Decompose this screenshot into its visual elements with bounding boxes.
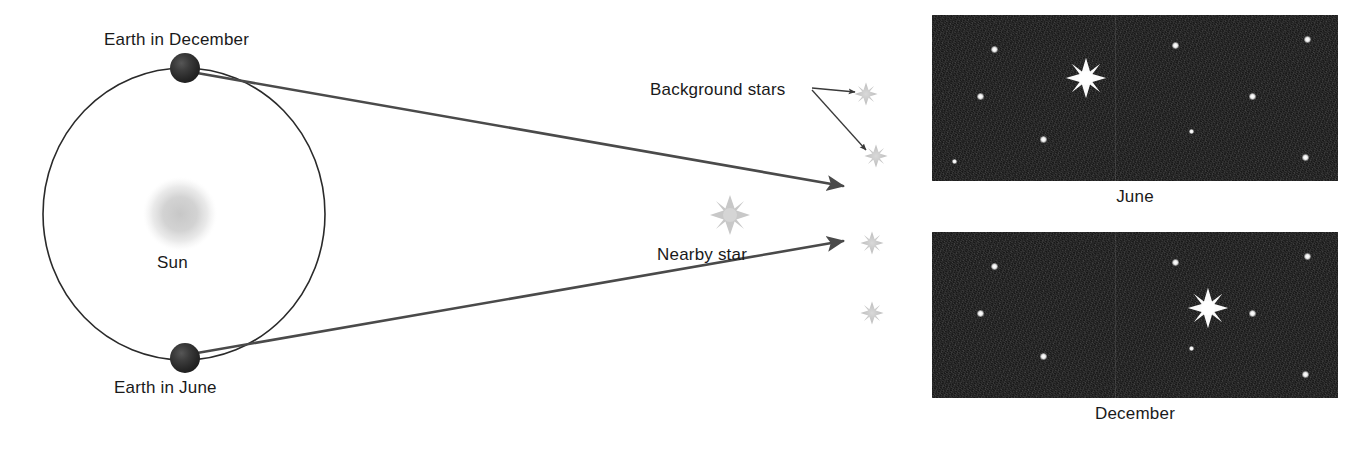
background-stars-leader-line bbox=[812, 88, 855, 92]
label-earth-in-june: Earth in June bbox=[114, 378, 217, 398]
background-star-marker bbox=[865, 145, 888, 168]
sky-panel-seam bbox=[1115, 15, 1116, 181]
label-panel-december: December bbox=[932, 404, 1338, 424]
label-nearby-star: Nearby star bbox=[657, 245, 747, 265]
label-panel-june: June bbox=[932, 187, 1338, 207]
parallax-figure: Earth in December Earth in June Sun Near… bbox=[0, 0, 1369, 451]
panel-nearby-star bbox=[1186, 286, 1230, 330]
panel-background-star bbox=[1304, 36, 1311, 43]
sky-panel-december bbox=[932, 232, 1338, 398]
sky-panel-seam bbox=[1115, 232, 1116, 398]
label-earth-in-december: Earth in December bbox=[104, 30, 249, 50]
background-star-marker bbox=[855, 83, 878, 106]
earth-june-body bbox=[170, 343, 200, 373]
sky-noise-texture bbox=[932, 232, 1338, 398]
panel-background-star bbox=[952, 159, 957, 164]
sky-panel-june bbox=[932, 15, 1338, 181]
label-background-stars: Background stars bbox=[650, 80, 786, 100]
label-sun: Sun bbox=[157, 253, 188, 273]
nearby-star-marker bbox=[710, 195, 750, 235]
background-stars-leader-line bbox=[812, 90, 866, 150]
background-star-marker bbox=[861, 232, 884, 255]
earth-december-body bbox=[170, 53, 200, 83]
background-star-marker bbox=[861, 302, 884, 325]
panel-background-star bbox=[977, 310, 984, 317]
panel-background-star bbox=[1304, 253, 1311, 260]
panel-nearby-star bbox=[1064, 56, 1108, 100]
sky-noise-texture bbox=[932, 15, 1338, 181]
sun-body bbox=[142, 176, 218, 252]
panel-background-star bbox=[977, 93, 984, 100]
